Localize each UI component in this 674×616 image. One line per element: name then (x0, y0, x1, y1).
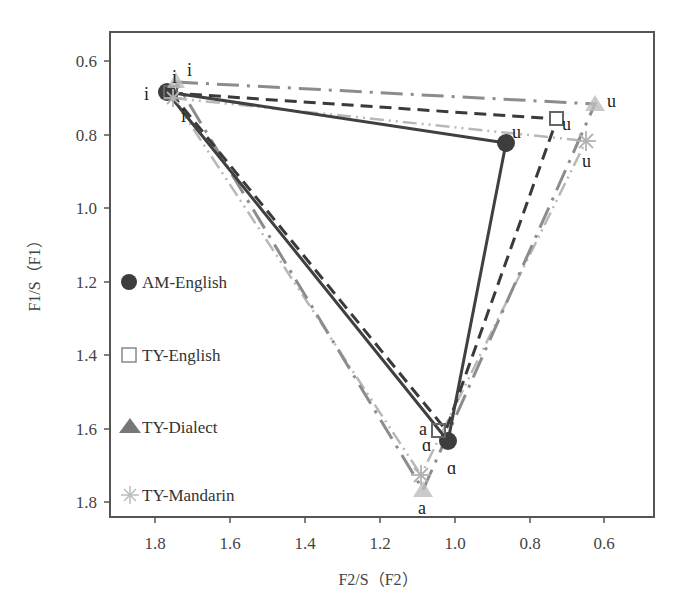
star-marker-icon (411, 465, 431, 485)
x-tick-label: 1.2 (369, 534, 390, 553)
point-label: u (582, 151, 591, 171)
x-tick-label: 1.8 (144, 534, 165, 553)
y-tick-label: 1.4 (76, 346, 98, 365)
x-tick-label: 1.0 (444, 534, 465, 553)
point-label: a (418, 498, 426, 518)
point-label: u (607, 91, 616, 111)
x-axis-title: F2/S（F2） (338, 571, 417, 588)
point-label: u (562, 114, 571, 134)
x-tick-label: 0.8 (519, 534, 540, 553)
point-label: u (512, 122, 521, 142)
vowel-chart: 0.6 0.8 1.0 1.2 1.4 1.6 1.8 1.8 1.6 1.4 … (0, 0, 674, 616)
legend-label: TY-Dialect (142, 418, 218, 437)
y-tick-labels: 0.6 0.8 1.0 1.2 1.4 1.6 1.8 (76, 52, 98, 512)
legend-label: TY-Mandarin (142, 486, 235, 505)
legend-label: AM-English (142, 273, 228, 292)
y-tick-label: 1.0 (76, 199, 97, 218)
point-label: ɑ (447, 458, 456, 478)
y-tick-label: 1.6 (76, 420, 97, 439)
point-label: i (187, 60, 192, 80)
y-tick-label: 1.2 (76, 273, 97, 292)
point-label: i (181, 106, 186, 126)
point-label: ɑ (422, 435, 431, 455)
y-tick-label: 0.6 (76, 52, 97, 71)
y-tick-label: 0.8 (76, 126, 97, 145)
point-label: i (144, 84, 149, 104)
circle-marker-icon (121, 274, 137, 290)
x-tick-label: 1.6 (219, 534, 240, 553)
circle-marker-icon (439, 432, 457, 450)
y-axis-title: F1/S（F1） (26, 232, 43, 311)
point-label: i (172, 67, 177, 87)
x-tick-label: 0.6 (593, 534, 614, 553)
legend-label: TY-English (142, 346, 221, 365)
x-tick-label: 1.4 (294, 534, 316, 553)
y-tick-label: 1.8 (76, 493, 97, 512)
x-tick-labels: 1.8 1.6 1.4 1.2 1.0 0.8 0.6 (144, 534, 614, 553)
star-marker-icon (576, 131, 596, 151)
